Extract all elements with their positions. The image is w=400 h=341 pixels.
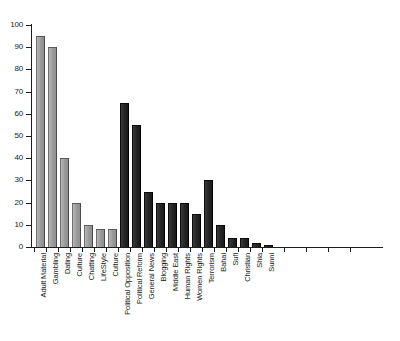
x-axis-tick [118,247,119,252]
y-axis-tick-label: 90 [15,41,24,52]
x-axis-label: Culture [75,253,84,276]
x-axis-tick [130,247,131,252]
x-axis-label: Political Reform [135,253,144,304]
x-axis-tick [94,247,95,252]
x-axis-tick [178,247,179,252]
x-axis-tick [154,247,155,252]
x-axis-label: Terrorism [207,253,216,283]
y-axis-tick: 100 [26,25,31,26]
y-axis-tick: 60 [26,114,31,115]
x-axis-tick [262,247,263,252]
x-axis-tick [250,247,251,252]
x-axis-label: Women Rights [195,253,204,301]
y-axis-tick: 80 [26,69,31,70]
bar [36,36,45,247]
bar [96,229,105,247]
y-axis-tick-label: 60 [15,108,24,119]
x-axis-label: General News [147,253,156,299]
bar [60,158,69,247]
bar [84,225,93,247]
y-axis-tick-label: 20 [15,197,24,208]
x-axis-tick [106,247,107,252]
bar [156,203,165,247]
plot-area: 0102030405060708090100 [31,25,391,247]
x-axis-tick-empty [284,247,285,252]
x-axis-tick [34,247,35,252]
bar [132,125,141,247]
bar [204,180,213,247]
bar [168,203,177,247]
y-axis-tick: 90 [26,47,31,48]
bar [108,229,117,247]
bar [144,192,153,248]
x-axis-tick-empty [350,247,351,252]
y-axis-tick-label: 50 [15,130,24,141]
y-axis-tick: 40 [26,158,31,159]
x-axis-label: Adult Material [39,253,48,297]
y-axis-tick-label: 40 [15,152,24,163]
x-axis-label: Sufi [231,253,240,266]
bar [216,225,225,247]
x-axis-label: Shia [255,253,264,268]
bar [180,203,189,247]
x-axis-tick [142,247,143,252]
x-axis-line [31,247,383,248]
x-axis-tick-empty [328,247,329,252]
y-axis-tick-label: 100 [10,19,23,30]
x-axis-label: Culture [111,253,120,276]
x-axis-label: LifeStyle [99,253,108,281]
y-axis-tick: 70 [26,92,31,93]
bar [264,245,273,247]
bar [192,214,201,247]
bar [120,103,129,247]
bar [252,243,261,247]
y-axis-tick-label: 0 [19,241,23,252]
y-axis-tick-label: 80 [15,63,24,74]
x-axis-label: Sunni [267,253,276,272]
y-axis-tick: 20 [26,203,31,204]
x-axis-tick [214,247,215,252]
x-axis-tick [46,247,47,252]
x-axis-tick [238,247,239,252]
bar [240,238,249,247]
x-axis-label: Political Opposition [123,253,132,315]
bar [72,203,81,247]
bar [48,47,57,247]
y-axis-tick: 30 [26,180,31,181]
x-axis-tick [58,247,59,252]
x-axis-tick-empty [306,247,307,252]
bar-chart: 0102030405060708090100 Adult MaterialGam… [0,0,400,341]
y-axis-tick: 0 [26,247,31,248]
y-axis-tick-label: 30 [15,174,24,185]
y-axis-tick-label: 10 [15,219,24,230]
x-axis-tick [166,247,167,252]
x-axis-label: Dating [63,253,72,274]
y-axis-tick: 10 [26,225,31,226]
y-axis-tick: 50 [26,136,31,137]
x-axis-label: Christian [243,253,252,282]
x-axis-tick [70,247,71,252]
x-axis-label: Bahai [219,253,228,272]
x-axis-tick [190,247,191,252]
y-axis-tick-label: 70 [15,86,24,97]
bar [228,238,237,247]
x-axis-tick [202,247,203,252]
x-axis-tick [226,247,227,252]
x-axis-label: Chatting [87,253,96,280]
x-axis-label: Gambling [51,253,60,284]
x-axis-label: Human Rights [183,253,192,299]
x-axis-label: Middle East [171,253,180,291]
x-axis-label: Blogging [159,253,168,281]
x-axis-tick [82,247,83,252]
